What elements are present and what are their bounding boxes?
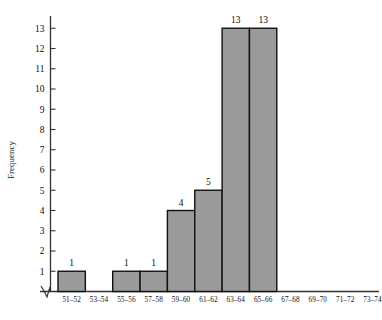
- x-tick-label: 63–64: [227, 296, 246, 304]
- y-tick-label: 7: [40, 145, 45, 155]
- y-tick-label: 4: [40, 206, 45, 216]
- y-tick-label: 9: [40, 105, 45, 115]
- x-tick-label: 65–66: [254, 296, 273, 304]
- x-tick-label: 61–62: [199, 296, 218, 304]
- x-tick-label: 51–52: [62, 296, 81, 304]
- bars-group: [58, 28, 277, 291]
- y-tick-label: 13: [35, 24, 45, 34]
- x-tick-label: 67–68: [281, 296, 300, 304]
- x-tick-label: 59–60: [172, 296, 191, 304]
- x-tick-label: 73–74: [363, 296, 382, 304]
- y-tick-label: 8: [40, 125, 45, 135]
- x-tick-label: 69–70: [309, 296, 328, 304]
- histogram-bar: [140, 271, 167, 291]
- y-tick-label: 6: [40, 165, 45, 175]
- histogram-bar: [195, 190, 222, 291]
- y-tick-label: 12: [35, 44, 45, 54]
- histogram-bar: [58, 271, 85, 291]
- y-axis-label-text: Frequency: [6, 141, 16, 179]
- x-tick-label: 55–56: [117, 296, 136, 304]
- y-tick-label: 10: [35, 84, 45, 94]
- x-tick-label: 53–54: [90, 296, 109, 304]
- bar-value-label: 1: [151, 258, 156, 268]
- x-axis-ticks: 51–5253–5455–5657–5859–6061–6263–6465–66…: [62, 296, 382, 304]
- x-tick-label: 71–72: [336, 296, 355, 304]
- histogram-bar: [249, 28, 276, 291]
- x-tick-label: 57–58: [144, 296, 163, 304]
- histogram-bar: [222, 28, 249, 291]
- histogram-bar: [167, 211, 194, 292]
- bar-value-label: 5: [206, 177, 211, 187]
- bar-value-label: 4: [179, 198, 184, 208]
- y-tick-label: 2: [40, 246, 45, 256]
- bar-value-label: 1: [124, 258, 129, 268]
- histogram-chart: Frequency 12345678910111213 111451313 51…: [0, 0, 382, 320]
- bar-value-label: 13: [258, 15, 268, 25]
- y-tick-label: 5: [40, 186, 45, 196]
- bar-value-label: 1: [69, 258, 74, 268]
- y-tick-label: 3: [40, 226, 45, 236]
- y-tick-label: 11: [35, 64, 44, 74]
- bar-value-label: 13: [231, 15, 241, 25]
- histogram-svg: Frequency 12345678910111213 111451313 51…: [0, 0, 382, 320]
- y-axis-label: Frequency: [6, 141, 16, 179]
- y-tick-label: 1: [40, 267, 45, 277]
- histogram-bar: [113, 271, 140, 291]
- y-axis-ticks: 12345678910111213: [35, 24, 56, 277]
